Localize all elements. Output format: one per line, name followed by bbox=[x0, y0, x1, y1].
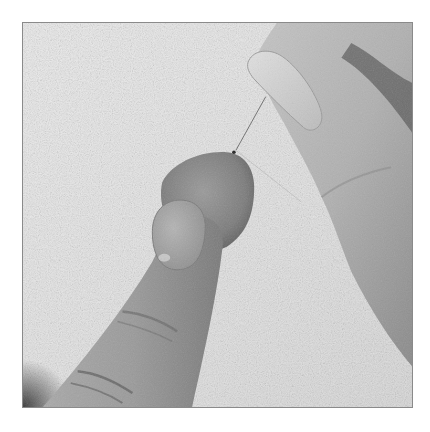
photo bbox=[22, 22, 413, 408]
photo-scene bbox=[23, 23, 412, 407]
photo-grain bbox=[23, 23, 412, 407]
